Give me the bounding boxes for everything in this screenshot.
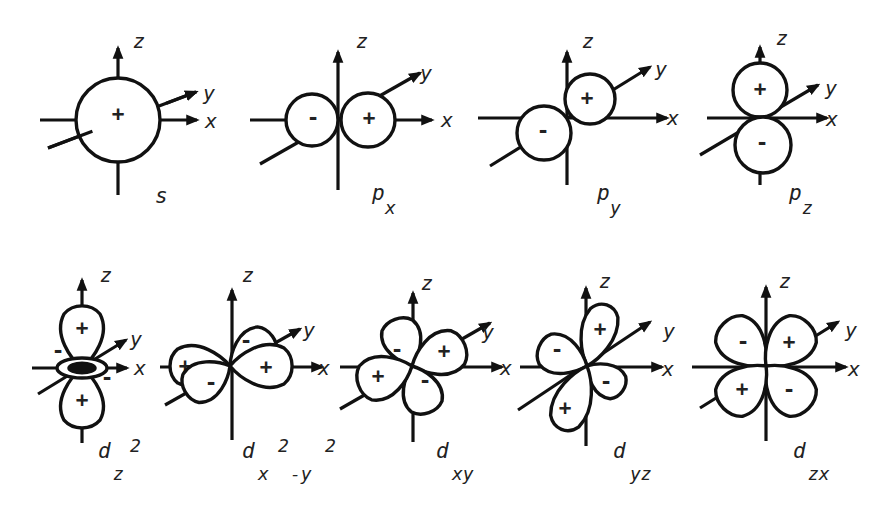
orbital-name-label: d [98, 439, 111, 463]
orbital-subscript-tail-label: -y [290, 463, 312, 484]
phase-sign: - [783, 378, 796, 402]
orbital-diagram: +zyxs-+zyxpx+-zyxpy+-zyxpz++--zyxdz2-++-… [0, 0, 890, 506]
x-axis-label: x [661, 357, 674, 381]
orbital-name-label: s [155, 184, 168, 208]
orbital-name-label: p [596, 181, 610, 205]
phase-sign: + [76, 316, 89, 340]
phase-sign: - [307, 106, 320, 130]
lobes: -+-+ [357, 318, 467, 414]
orbital-pz: +-zyxpz [700, 26, 838, 218]
z-axis-label: z [133, 29, 145, 53]
z-axis-label: z [599, 269, 611, 293]
lobes: -+ [286, 93, 395, 147]
orbitals-group: +zyxs-+zyxpx+-zyxpy+-zyxpz++--zyxdz2-++-… [32, 26, 860, 484]
orbital-subscript-label: y [609, 197, 621, 218]
phase-sign: + [754, 77, 767, 101]
orbital-dxy: -+-+zyxdxy [340, 271, 512, 484]
y-axis-label: y [844, 318, 857, 342]
orbital-name-label: p [788, 181, 802, 205]
x-axis-label: x [317, 356, 330, 380]
orbital-dx2y2: -++-zyxdx2-y2 [160, 263, 336, 484]
phase-sign: + [581, 86, 594, 110]
phase-sign: - [737, 330, 750, 354]
phase-sign: + [260, 355, 273, 379]
phase-sign: + [112, 102, 125, 126]
orbital-subscript-label: z [802, 197, 813, 218]
phase-sign: + [372, 364, 385, 388]
z-axis-label: z [242, 263, 254, 287]
y-axis-arrow-icon [166, 92, 196, 103]
orbital-dyz: +--+zyxdyz [518, 269, 675, 484]
y-axis-label: y [662, 319, 675, 343]
y-axis-label: y [654, 57, 667, 81]
orbital-subscript-label: x [257, 463, 269, 484]
z-axis-label: z [421, 271, 433, 295]
phase-sign: - [551, 338, 564, 362]
lobes: +--+ [537, 304, 626, 430]
lobes: ++-- [52, 306, 114, 428]
x-axis-label: x [666, 106, 679, 130]
orbital-s: +zyxs [40, 29, 217, 208]
phase-sign: + [76, 388, 89, 412]
x-axis-label: x [847, 357, 860, 381]
y-axis-label: y [481, 320, 494, 344]
phase-sign: - [600, 370, 613, 394]
orbital-subscript-label: z [113, 463, 124, 484]
y-axis-label: y [129, 327, 142, 351]
orbital-name-label: d [242, 439, 255, 463]
phase-sign: - [205, 371, 218, 395]
phase-sign: - [101, 366, 114, 390]
phase-sign: + [783, 330, 796, 354]
orbital-tail-superscript-label: 2 [325, 435, 336, 456]
orbital-dzx: -+-+zyxdzx [692, 269, 860, 484]
x-axis-label: x [204, 109, 217, 133]
z-axis-label: z [582, 29, 594, 53]
orbital-dz2: ++--zyxdz2 [32, 263, 146, 484]
x-axis-label: x [825, 107, 838, 131]
y-axis-label: y [202, 81, 215, 105]
orbital-subscript-label: yz [629, 463, 652, 484]
phase-sign: - [537, 119, 550, 143]
lobes: + [76, 78, 160, 162]
x-axis-label: x [133, 356, 146, 380]
z-axis-label: z [776, 26, 788, 50]
orbital-subscript-label: x [384, 197, 396, 218]
y-axis-label: y [419, 61, 432, 85]
orbital-name-label: d [793, 439, 806, 463]
z-axis-label: z [779, 269, 791, 293]
phase-sign: - [419, 369, 432, 393]
orbital-px: -+zyxpx [250, 29, 453, 218]
phase-sign: + [438, 339, 451, 363]
orbital-name-label: d [613, 439, 626, 463]
orbital-subscript-label: xy [451, 463, 474, 484]
orbital-subscript-label: zx [808, 463, 830, 484]
y-axis-label: y [302, 318, 315, 342]
orbital-superscript-label: 2 [278, 435, 289, 456]
phase-sign: + [736, 377, 749, 401]
orbital-name-label: p [371, 181, 385, 205]
phase-sign: + [594, 317, 607, 341]
phase-sign: + [363, 106, 376, 130]
x-axis-label: x [440, 108, 453, 132]
phase-sign: - [52, 339, 65, 363]
z-axis-label: z [356, 29, 368, 53]
phase-sign: - [756, 131, 769, 155]
y-axis-label: y [824, 76, 837, 100]
orbital-py: +-zyxpy [478, 29, 679, 218]
orbital-superscript-label: 2 [130, 435, 141, 456]
z-axis-label: z [100, 263, 112, 287]
lobe-torus-core [68, 363, 96, 374]
phase-sign: + [559, 396, 572, 420]
x-axis-label: x [499, 356, 512, 380]
orbital-name-label: d [436, 439, 449, 463]
